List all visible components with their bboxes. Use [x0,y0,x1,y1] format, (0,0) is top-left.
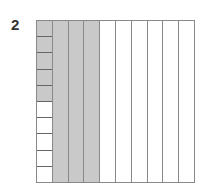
grid-column [116,21,132,182]
grid-column [53,21,69,182]
grid-cell [37,70,52,86]
grid-column [100,21,116,182]
grid-column [163,21,179,182]
grid-cell [37,151,52,167]
problem-number: 2 [11,17,19,32]
grid-column [132,21,148,182]
grid-cell [37,167,52,182]
grid-cell [37,118,52,134]
grid-cell [37,102,52,118]
grid-column [179,21,194,182]
grid-column [69,21,85,182]
grid-cell [37,86,52,102]
grid-column [37,21,53,182]
grid-column [84,21,100,182]
grid-column [148,21,164,182]
hundredths-grid [36,20,195,183]
grid-cell [37,134,52,150]
grid-cell [37,21,52,37]
grid-cell [37,37,52,53]
grid-cell [37,53,52,69]
